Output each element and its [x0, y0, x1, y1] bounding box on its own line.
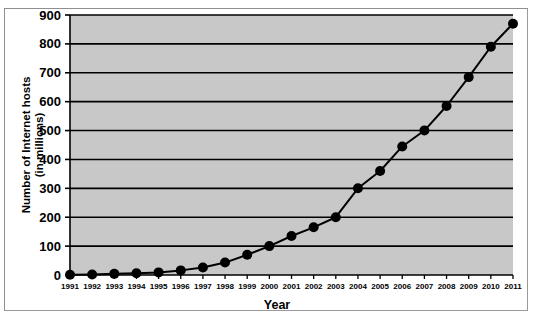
y-tick-label-0: 0: [54, 268, 61, 283]
data-point-2000: [264, 241, 274, 251]
x-tick-label-2010: 2010: [482, 282, 500, 291]
x-tick-label-2004: 2004: [349, 282, 367, 291]
y-tick-label-700: 700: [39, 65, 61, 80]
plot-wrapper: 0100200300400500600700800900 19911992199…: [0, 0, 534, 319]
y-tick-label-800: 800: [39, 36, 61, 51]
data-point-2003: [331, 212, 341, 222]
x-tick-label-2008: 2008: [438, 282, 456, 291]
y-tick-label-300: 300: [39, 181, 61, 196]
x-tick-label-1996: 1996: [172, 282, 190, 291]
x-tick-label-2007: 2007: [416, 282, 434, 291]
y-axis-title-line1: Number of Internet hosts: [20, 77, 32, 214]
y-tick-label-200: 200: [39, 210, 61, 225]
x-tick-label-1997: 1997: [194, 282, 212, 291]
x-tick-label-2002: 2002: [305, 282, 323, 291]
x-tick-label-2000: 2000: [260, 282, 278, 291]
data-point-2001: [287, 231, 297, 241]
chart-figure: 0100200300400500600700800900 19911992199…: [0, 0, 534, 319]
data-point-1999: [242, 250, 252, 260]
data-point-1991: [65, 270, 75, 280]
y-tick-label-900: 900: [39, 8, 61, 23]
x-tick-label-1995: 1995: [150, 282, 168, 291]
data-point-2004: [353, 183, 363, 193]
x-axis-tick-labels: 1991199219931994199519961997199819992000…: [61, 282, 522, 291]
x-tick-label-2003: 2003: [327, 282, 345, 291]
data-point-1996: [176, 265, 186, 275]
y-tick-label-100: 100: [39, 239, 61, 254]
data-point-2008: [442, 101, 452, 111]
x-tick-label-1994: 1994: [128, 282, 146, 291]
y-tick-label-600: 600: [39, 94, 61, 109]
x-tick-label-1998: 1998: [216, 282, 234, 291]
x-tick-label-2005: 2005: [371, 282, 389, 291]
data-point-1993: [109, 269, 119, 279]
x-tick-label-2001: 2001: [283, 282, 301, 291]
data-point-1994: [131, 268, 141, 278]
data-point-2006: [397, 141, 407, 151]
data-point-1997: [198, 262, 208, 272]
y-axis-title-line2: (in millions): [33, 113, 45, 178]
data-point-2009: [464, 72, 474, 82]
x-axis-title: Year: [264, 298, 291, 312]
data-point-2010: [486, 42, 496, 52]
data-point-2011: [508, 19, 518, 29]
data-point-2005: [375, 166, 385, 176]
data-point-2002: [309, 222, 319, 232]
data-point-1995: [154, 267, 164, 277]
x-tick-label-1992: 1992: [83, 282, 101, 291]
x-tick-label-2009: 2009: [460, 282, 478, 291]
x-tick-label-1993: 1993: [105, 282, 123, 291]
data-point-2007: [419, 126, 429, 136]
data-point-1992: [87, 269, 97, 279]
x-tick-label-1999: 1999: [238, 282, 256, 291]
x-tick-label-1991: 1991: [61, 282, 79, 291]
data-point-1998: [220, 258, 230, 268]
x-tick-label-2006: 2006: [393, 282, 411, 291]
line-chart-svg: 0100200300400500600700800900 19911992199…: [0, 0, 534, 319]
x-tick-label-2011: 2011: [504, 282, 522, 291]
